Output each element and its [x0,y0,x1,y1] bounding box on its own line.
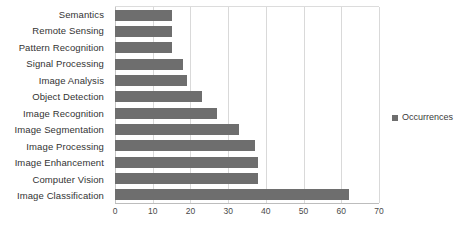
value-tick-label: 30 [223,206,232,217]
bar-row [115,42,379,53]
bar-row [115,108,379,119]
bar-row [115,189,379,200]
category-label: Image Segmentation [0,124,110,135]
bar-chart: SemanticsRemote SensingPattern Recogniti… [0,0,471,238]
bar [115,42,172,53]
value-tick-label: 40 [261,206,270,217]
bar [115,157,258,168]
bar [115,124,239,135]
plot-area [115,6,379,204]
bar [115,108,217,119]
bar-row [115,75,379,86]
legend-square-marker-icon [392,115,398,121]
category-label: Object Detection [0,91,110,102]
value-tick-label: 20 [186,206,195,217]
chart-legend: Occurrences [392,112,453,123]
legend-entry-label: Occurrences [402,112,453,123]
bar-row [115,91,379,102]
value-tick-label: 50 [299,206,308,217]
bar [115,26,172,37]
category-label: Image Classification [0,190,110,201]
category-label: Image Processing [0,141,110,152]
category-label: Pattern Recognition [0,42,110,53]
bar-row [115,59,379,70]
bar [115,10,172,21]
bar [115,140,255,151]
category-label: Image Enhancement [0,157,110,168]
bar-series-occurrences [115,7,379,203]
bar [115,59,183,70]
bar-row [115,10,379,21]
category-label: Signal Processing [0,58,110,69]
category-label: Remote Sensing [0,25,110,36]
gridline [379,7,380,203]
value-tick-label: 10 [148,206,157,217]
bar-row [115,124,379,135]
bar [115,189,349,200]
category-label: Computer Vision [0,174,110,185]
value-tick-label: 70 [374,206,383,217]
category-label: Image Recognition [0,108,110,119]
value-tick-label: 0 [113,206,118,217]
category-label: Image Analysis [0,75,110,86]
value-axis: 010203040506070 [115,206,379,222]
bar [115,91,202,102]
bar [115,75,187,86]
bar-row [115,140,379,151]
value-tick-label: 60 [337,206,346,217]
bar-row [115,26,379,37]
bar-row [115,157,379,168]
bar-row [115,173,379,184]
bar [115,173,258,184]
category-axis: SemanticsRemote SensingPattern Recogniti… [0,6,110,204]
category-label: Semantics [0,9,110,20]
